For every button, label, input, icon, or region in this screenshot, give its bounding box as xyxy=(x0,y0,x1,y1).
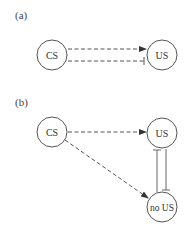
node-no-us-b: no US xyxy=(147,192,177,222)
panel-b-label: (b) xyxy=(15,96,28,109)
node-cs-b-label: CS xyxy=(46,127,58,138)
node-us-a-label: US xyxy=(156,50,169,61)
node-us-b-label: US xyxy=(156,128,169,139)
panel-a: (a) CS US xyxy=(15,9,177,70)
panel-b: (b) CS US no US xyxy=(15,96,177,222)
node-cs-a-label: CS xyxy=(46,50,58,61)
node-us-b: US xyxy=(147,118,177,148)
panel-a-label: (a) xyxy=(15,9,28,22)
diagram-canvas: (a) CS US (b) CS US no US xyxy=(0,0,187,228)
node-cs-b: CS xyxy=(37,117,67,147)
node-cs-a: CS xyxy=(37,40,67,70)
node-no-us-b-label: no US xyxy=(150,203,174,213)
node-us-a: US xyxy=(147,40,177,70)
edge-cs-nous-b xyxy=(65,140,148,198)
